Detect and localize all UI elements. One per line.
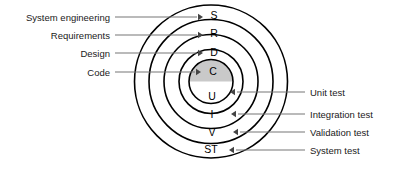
test-label-2: Validation test <box>310 127 369 138</box>
test-label-0: Unit test <box>310 87 345 98</box>
ring-letter-I: I <box>211 108 214 120</box>
ring-letter-group: SRDCUIVST <box>204 9 218 155</box>
phase-label-3: Code <box>87 67 110 78</box>
leader-arrowhead <box>233 129 238 135</box>
test-label-3: System test <box>310 145 360 156</box>
test-label-1: Integration test <box>310 109 373 120</box>
ring-letter-C: C <box>209 65 217 77</box>
leader-arrowhead <box>198 32 203 38</box>
right-label-group: Unit testIntegration testValidation test… <box>310 87 373 156</box>
phase-label-1: Requirements <box>51 30 110 41</box>
phase-label-0: System engineering <box>26 12 110 23</box>
leader-arrowhead <box>229 147 234 153</box>
ring-letter-U: U <box>208 90 216 102</box>
diagram-canvas: SRDCUIVST System engineeringRequirements… <box>0 0 395 169</box>
ring-letter-ST: ST <box>204 143 218 155</box>
leader-arrowhead <box>198 14 203 20</box>
left-label-group: System engineeringRequirementsDesignCode <box>26 12 110 78</box>
ring-letter-S: S <box>210 9 217 21</box>
phase-label-2: Design <box>80 48 110 59</box>
ring-letter-R: R <box>210 27 218 39</box>
ring-letter-D: D <box>210 46 218 58</box>
ring-letter-V: V <box>208 126 215 138</box>
concentric-process-diagram: SRDCUIVST System engineeringRequirements… <box>0 0 395 169</box>
right-leader-group <box>229 89 305 153</box>
leader-arrowhead <box>231 111 236 117</box>
